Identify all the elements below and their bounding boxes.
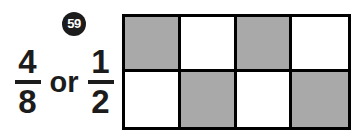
grid-cell-shaded [292,72,348,127]
fraction-numerator: 4 [18,45,36,79]
item-number-badge: 59 [62,12,86,36]
grid-cell-shaded [181,72,237,127]
fraction-denominator: 2 [91,85,109,119]
fraction-denominator: 8 [18,85,36,119]
grid-cell-unshaded [125,72,181,127]
fraction-one-half: 1 2 [88,45,114,119]
grid-cell-unshaded [181,17,237,72]
area-model-grid [122,14,351,130]
grid-cell-shaded [237,17,293,72]
grid-cell-unshaded [237,72,293,127]
fraction-expression: 4 8 or 1 2 [8,38,120,126]
grid-cell-unshaded [292,17,348,72]
fraction-numerator: 1 [91,45,109,79]
fraction-four-eighths: 4 8 [15,45,41,119]
fraction-model-figure: 59 4 8 or 1 2 [0,0,361,137]
conjunction-label: or [50,67,79,97]
grid-cell-shaded [125,17,181,72]
